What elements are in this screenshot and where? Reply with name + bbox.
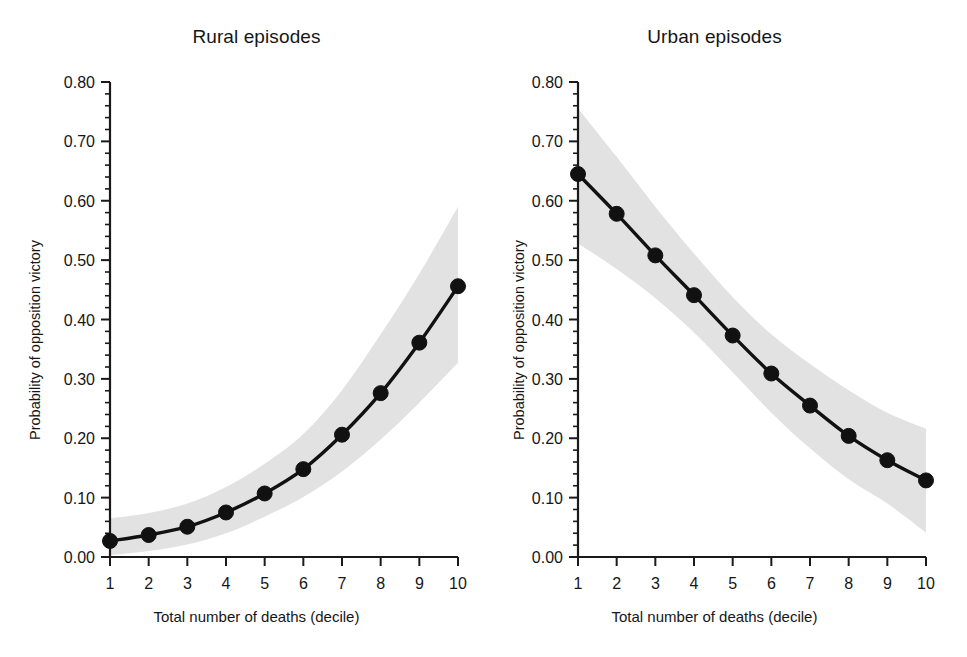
y-tick-label: 0.00 bbox=[532, 549, 563, 566]
data-point-marker bbox=[180, 519, 195, 534]
chart-panel-rural: Rural episodes Probability of opposition… bbox=[0, 0, 483, 657]
y-tick-label: 0.50 bbox=[532, 252, 563, 269]
data-point-marker bbox=[141, 528, 156, 543]
data-point-marker bbox=[571, 167, 586, 182]
y-tick-label: 0.80 bbox=[64, 74, 95, 91]
x-tick-label: 3 bbox=[183, 575, 192, 592]
y-tick-label: 0.00 bbox=[64, 549, 95, 566]
data-point-marker bbox=[296, 462, 311, 477]
x-tick-label: 5 bbox=[728, 575, 737, 592]
data-point-marker bbox=[373, 386, 388, 401]
y-tick-label: 0.60 bbox=[532, 193, 563, 210]
x-tick-label: 4 bbox=[690, 575, 699, 592]
y-tick-label: 0.30 bbox=[532, 371, 563, 388]
x-tick-label: 8 bbox=[844, 575, 853, 592]
y-tick-label: 0.20 bbox=[64, 430, 95, 447]
x-tick-label: 9 bbox=[883, 575, 892, 592]
x-tick-label: 10 bbox=[449, 575, 467, 592]
plot-area-urban: 0.000.100.200.300.400.500.600.700.801234… bbox=[484, 0, 967, 657]
data-point-marker bbox=[919, 473, 934, 488]
data-point-marker bbox=[609, 206, 624, 221]
data-point-marker bbox=[451, 279, 466, 294]
y-tick-label: 0.60 bbox=[64, 193, 95, 210]
x-tick-label: 10 bbox=[917, 575, 935, 592]
data-point-marker bbox=[412, 335, 427, 350]
data-point-marker bbox=[841, 428, 856, 443]
x-tick-label: 2 bbox=[144, 575, 153, 592]
y-tick-label: 0.40 bbox=[64, 312, 95, 329]
data-point-marker bbox=[725, 328, 740, 343]
data-point-marker bbox=[764, 366, 779, 381]
y-tick-label: 0.30 bbox=[64, 371, 95, 388]
data-point-marker bbox=[335, 427, 350, 442]
confidence-band bbox=[578, 108, 926, 533]
y-tick-label: 0.40 bbox=[532, 312, 563, 329]
x-tick-label: 3 bbox=[651, 575, 660, 592]
data-point-marker bbox=[880, 453, 895, 468]
data-point-marker bbox=[687, 288, 702, 303]
x-tick-label: 2 bbox=[612, 575, 621, 592]
data-point-marker bbox=[257, 486, 272, 501]
data-point-marker bbox=[803, 398, 818, 413]
x-tick-label: 4 bbox=[222, 575, 231, 592]
y-tick-label: 0.70 bbox=[532, 133, 563, 150]
x-tick-label: 6 bbox=[767, 575, 776, 592]
y-tick-label: 0.50 bbox=[64, 252, 95, 269]
y-tick-label: 0.10 bbox=[532, 490, 563, 507]
data-point-marker bbox=[219, 505, 234, 520]
x-tick-label: 7 bbox=[338, 575, 347, 592]
figure-container: Rural episodes Probability of opposition… bbox=[0, 0, 967, 657]
x-tick-label: 1 bbox=[106, 575, 115, 592]
x-tick-label: 6 bbox=[299, 575, 308, 592]
plot-area-rural: 0.000.100.200.300.400.500.600.700.801234… bbox=[0, 0, 483, 657]
x-tick-label: 8 bbox=[376, 575, 385, 592]
chart-panel-urban: Urban episodes Probability of opposition… bbox=[484, 0, 967, 657]
x-axis-title-rural: Total number of deaths (decile) bbox=[0, 608, 483, 625]
confidence-band bbox=[110, 207, 458, 556]
data-point-marker bbox=[648, 248, 663, 263]
x-tick-label: 7 bbox=[806, 575, 815, 592]
y-tick-label: 0.80 bbox=[532, 74, 563, 91]
x-tick-label: 5 bbox=[260, 575, 269, 592]
x-tick-label: 9 bbox=[415, 575, 424, 592]
x-axis-title-urban: Total number of deaths (decile) bbox=[484, 608, 967, 625]
data-point-marker bbox=[103, 533, 118, 548]
y-tick-label: 0.70 bbox=[64, 133, 95, 150]
caption-strip bbox=[0, 644, 967, 657]
x-tick-label: 1 bbox=[574, 575, 583, 592]
y-tick-label: 0.10 bbox=[64, 490, 95, 507]
y-tick-label: 0.20 bbox=[532, 430, 563, 447]
